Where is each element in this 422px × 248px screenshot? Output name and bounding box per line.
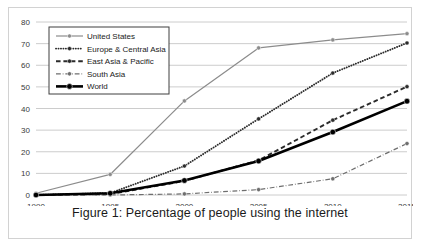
data-point	[182, 178, 188, 184]
y-tick-label: 10	[21, 169, 30, 178]
legend-marker	[67, 84, 73, 90]
figure-container: 01020304050607080 1990199520002005201020…	[8, 7, 412, 239]
series-line	[36, 101, 407, 195]
y-tick-label: 30	[21, 126, 30, 135]
y-axis-tick-labels: 01020304050607080	[21, 18, 30, 200]
legend-marker	[67, 59, 71, 63]
legend-label: World	[87, 82, 108, 91]
data-point	[182, 192, 186, 196]
data-point	[331, 38, 335, 42]
y-tick-label: 40	[21, 105, 30, 114]
y-tick-label: 60	[21, 61, 30, 70]
legend-label: East Asia & Pacific	[87, 57, 154, 66]
chart-plot-area: 01020304050607080 1990199520002005201020…	[9, 8, 413, 206]
data-point	[331, 118, 335, 122]
data-point	[257, 117, 261, 121]
data-point	[256, 158, 262, 164]
figure-caption: Figure 1: Percentage of people using the…	[9, 206, 411, 220]
data-point	[405, 41, 409, 45]
data-point	[33, 192, 39, 198]
data-point	[405, 32, 409, 36]
legend-label: Europe & Central Asia	[87, 45, 166, 54]
data-point	[330, 129, 336, 135]
data-point	[404, 98, 410, 104]
data-point	[257, 187, 261, 191]
series-line	[36, 144, 407, 195]
y-tick-label: 0	[26, 191, 31, 200]
y-tick-label: 70	[21, 40, 30, 49]
data-point	[405, 85, 409, 89]
chart-legend: United StatesEurope & Central AsiaEast A…	[49, 27, 169, 94]
data-point	[331, 71, 335, 75]
data-point	[108, 172, 112, 176]
y-tick-label: 20	[21, 148, 30, 157]
data-point	[257, 46, 261, 50]
y-tick-label: 80	[21, 18, 30, 27]
legend-label: United States	[87, 32, 135, 41]
line-chart: 01020304050607080 1990199520002005201020…	[9, 8, 413, 206]
data-point	[182, 164, 186, 168]
data-point	[182, 99, 186, 103]
data-point	[107, 190, 113, 196]
legend-label: South Asia	[87, 70, 126, 79]
data-point	[331, 177, 335, 181]
legend-marker	[67, 72, 71, 76]
y-tick-label: 50	[21, 83, 30, 92]
legend-marker	[67, 34, 71, 38]
data-point	[405, 141, 409, 145]
legend-marker	[67, 47, 71, 51]
